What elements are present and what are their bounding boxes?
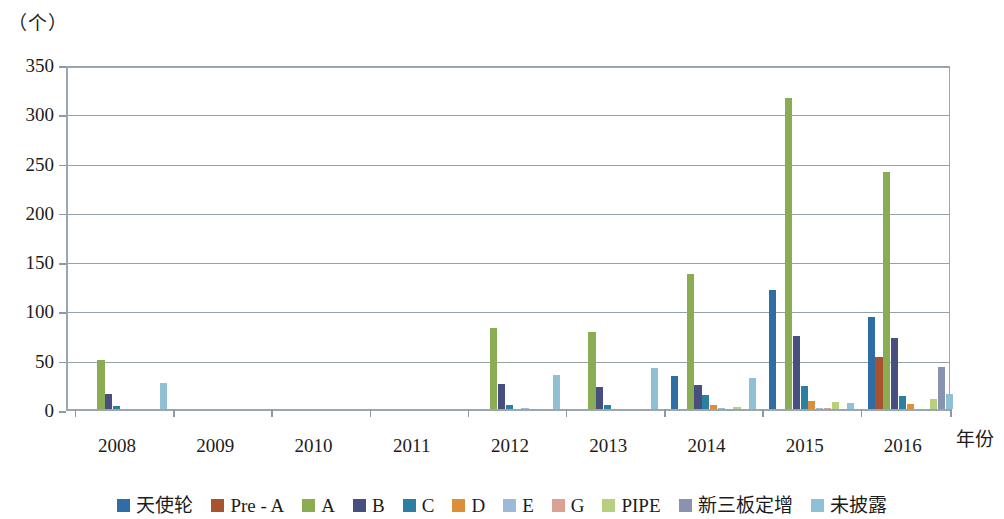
legend-swatch-icon xyxy=(117,499,130,512)
bar xyxy=(733,407,740,409)
legend-item[interactable]: 新三板定增 xyxy=(679,496,793,515)
legend-item[interactable]: B xyxy=(353,496,385,515)
legend-label: C xyxy=(422,496,435,515)
legend-item[interactable]: 未披露 xyxy=(811,496,887,515)
x-axis-tick-mark xyxy=(566,409,568,417)
legend-item[interactable]: 天使轮 xyxy=(117,496,193,515)
legend-item[interactable]: A xyxy=(302,496,335,515)
y-axis-tick-label: 200 xyxy=(8,203,54,225)
bar xyxy=(785,98,792,409)
bar xyxy=(702,395,709,409)
bar xyxy=(938,367,945,409)
bar xyxy=(930,399,937,409)
bar xyxy=(521,408,528,409)
y-axis-tick-mark xyxy=(59,165,66,167)
legend-label: G xyxy=(571,496,585,515)
bar xyxy=(687,274,694,409)
gridline xyxy=(68,66,950,67)
legend-item[interactable]: G xyxy=(552,496,585,515)
x-axis-tick-mark xyxy=(468,409,470,417)
y-axis-tick-mark xyxy=(59,411,66,413)
legend-label: 天使轮 xyxy=(136,496,193,515)
gridline xyxy=(68,362,950,363)
y-axis-tick-mark xyxy=(59,66,66,68)
legend-label: D xyxy=(471,496,485,515)
y-axis-tick-label: 350 xyxy=(8,55,54,77)
bar xyxy=(718,408,725,409)
bar xyxy=(883,172,890,409)
bar xyxy=(899,396,906,409)
legend-item[interactable]: C xyxy=(403,496,435,515)
bar xyxy=(801,386,808,409)
y-axis-tick-mark xyxy=(59,263,66,265)
bar xyxy=(891,338,898,409)
plot-frame-right xyxy=(949,66,951,409)
legend-item[interactable]: Pre - A xyxy=(211,496,284,515)
bar xyxy=(694,385,701,409)
bar xyxy=(907,404,914,409)
y-axis-tick-mark xyxy=(59,115,66,117)
legend-swatch-icon xyxy=(811,499,824,512)
y-axis-tick-label: 150 xyxy=(8,252,54,274)
legend-swatch-icon xyxy=(602,499,615,512)
chart-legend: 天使轮Pre - AABCDEGPIPE新三板定增未披露 xyxy=(0,496,1004,515)
x-axis-tick-mark xyxy=(173,409,175,417)
y-axis-tick-mark xyxy=(59,312,66,314)
gridline xyxy=(68,214,950,215)
x-axis-tick-label: 2014 xyxy=(687,435,725,457)
y-axis-tick-label: 300 xyxy=(8,104,54,126)
y-axis-tick-mark xyxy=(59,362,66,364)
bar xyxy=(847,403,854,409)
y-axis-unit-label: （个） xyxy=(8,8,68,35)
bar-chart: （个） 050100150200250300350 20082009201020… xyxy=(0,0,1004,519)
legend-label: B xyxy=(372,496,385,515)
legend-item[interactable]: D xyxy=(452,496,485,515)
legend-item[interactable]: E xyxy=(503,496,534,515)
y-axis-tick-label: 100 xyxy=(8,301,54,323)
bar xyxy=(808,401,815,409)
legend-swatch-icon xyxy=(211,499,224,512)
x-axis-tick-mark xyxy=(950,409,952,417)
gridline xyxy=(68,263,950,264)
y-axis-tick-label: 0 xyxy=(8,400,54,422)
plot-area xyxy=(66,66,950,411)
legend-swatch-icon xyxy=(679,499,692,512)
legend-swatch-icon xyxy=(503,499,516,512)
x-axis-tick-label: 2015 xyxy=(786,435,824,457)
legend-swatch-icon xyxy=(452,499,465,512)
bar xyxy=(868,317,875,409)
legend-label: 未披露 xyxy=(830,496,887,515)
bar xyxy=(105,394,112,409)
gridline xyxy=(68,312,950,313)
bar xyxy=(793,336,800,409)
bar xyxy=(749,378,756,409)
bar xyxy=(946,394,953,409)
legend-swatch-icon xyxy=(552,499,565,512)
x-axis-tick-label: 2016 xyxy=(884,435,922,457)
bar xyxy=(671,376,678,409)
bar xyxy=(490,328,497,409)
y-axis-tick-label: 250 xyxy=(8,154,54,176)
x-axis-tick-label: 2008 xyxy=(98,435,136,457)
legend-label: 新三板定增 xyxy=(698,496,793,515)
bar xyxy=(160,383,167,409)
y-axis-tick-mark xyxy=(59,214,66,216)
legend-label: E xyxy=(522,496,534,515)
bar xyxy=(596,387,603,409)
legend-item[interactable]: PIPE xyxy=(602,496,660,515)
y-axis-tick-label: 50 xyxy=(8,351,54,373)
gridline xyxy=(68,115,950,116)
bar xyxy=(651,368,658,409)
bar xyxy=(816,408,823,409)
bar xyxy=(97,360,104,409)
bar xyxy=(875,357,882,409)
x-axis-tick-mark xyxy=(271,409,273,417)
x-axis-tick-label: 2009 xyxy=(196,435,234,457)
x-axis-tick-label: 2012 xyxy=(491,435,529,457)
legend-label: PIPE xyxy=(621,496,660,515)
x-axis-tick-mark xyxy=(75,409,77,417)
bar xyxy=(604,405,611,409)
x-axis-tick-mark xyxy=(664,409,666,417)
bar xyxy=(498,384,505,409)
x-axis-tick-label: 2010 xyxy=(295,435,333,457)
